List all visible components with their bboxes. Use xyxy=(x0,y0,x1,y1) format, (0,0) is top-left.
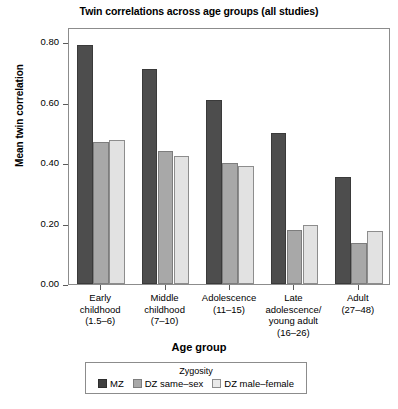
bar-group xyxy=(77,29,125,284)
bar-group xyxy=(142,29,190,284)
bar xyxy=(238,166,254,284)
legend-label: MZ xyxy=(110,378,124,389)
bar xyxy=(109,140,125,284)
y-tick-label: 0.80 xyxy=(41,36,60,47)
legend-item[interactable]: MZ xyxy=(98,378,124,389)
bar xyxy=(335,177,351,284)
x-tick-mark xyxy=(293,285,294,290)
bar xyxy=(287,230,303,284)
y-axis-ticks: 0.000.200.400.600.80 xyxy=(0,28,68,285)
legend-swatch-icon xyxy=(133,379,142,388)
bar xyxy=(271,133,287,284)
x-tick-mark xyxy=(229,285,230,290)
bar xyxy=(367,231,383,284)
chart-title: Twin correlations across age groups (all… xyxy=(0,5,398,17)
x-tick-mark xyxy=(358,285,359,290)
chart-root: Twin correlations across age groups (all… xyxy=(0,0,398,409)
x-tick-label: Adult (27–48) xyxy=(318,292,398,315)
legend: Zygosity MZDZ same–sexDZ male–female xyxy=(85,362,307,394)
bar xyxy=(303,225,319,284)
bar-group xyxy=(271,29,319,284)
legend-label: DZ male–female xyxy=(224,378,294,389)
bar-series-container xyxy=(69,29,389,284)
bar xyxy=(206,100,222,284)
bar xyxy=(158,151,174,284)
legend-title: Zygosity xyxy=(91,366,301,376)
bar xyxy=(142,69,158,284)
plot-area xyxy=(68,28,390,285)
bar xyxy=(222,163,238,284)
bar-group xyxy=(206,29,254,284)
legend-item[interactable]: DZ same–sex xyxy=(133,378,204,389)
bar-group xyxy=(335,29,383,284)
y-tick-label: 0.60 xyxy=(41,97,60,108)
y-tick-label: 0.40 xyxy=(41,157,60,168)
legend-label: DZ same–sex xyxy=(145,378,204,389)
y-tick-label: 0.20 xyxy=(41,218,60,229)
bar xyxy=(77,45,93,284)
legend-swatch-icon xyxy=(98,379,107,388)
y-tick-mark xyxy=(63,285,68,286)
x-tick-mark xyxy=(165,285,166,290)
legend-items: MZDZ same–sexDZ male–female xyxy=(91,378,301,389)
legend-item[interactable]: DZ male–female xyxy=(212,378,294,389)
bar xyxy=(174,156,190,285)
x-axis-title: Age group xyxy=(0,341,398,353)
legend-swatch-icon xyxy=(212,379,221,388)
x-tick-mark xyxy=(100,285,101,290)
bar xyxy=(351,243,367,284)
bar xyxy=(93,142,109,284)
y-tick-label: 0.00 xyxy=(41,278,60,289)
